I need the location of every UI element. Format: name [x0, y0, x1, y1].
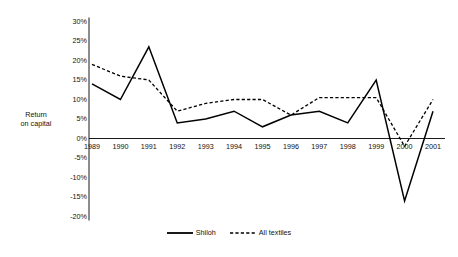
x-axis-tick-label: 1999 — [360, 143, 392, 151]
plot-area — [0, 0, 458, 257]
return-on-capital-line-chart: Return on capital 30%25%20%15%10%5%0%-5%… — [0, 0, 458, 257]
series-line-shiloh — [92, 47, 433, 201]
x-axis-tick-label: 2000 — [389, 143, 421, 151]
series-layer — [92, 47, 433, 201]
chart-legend: ShilohAll textiles — [0, 228, 458, 237]
x-axis-tick-label: 1997 — [303, 143, 335, 151]
y-axis-tick-label: 15% — [73, 76, 87, 84]
legend-swatch-solid-line-icon — [167, 229, 193, 237]
legend-swatch-dashed-line-icon — [230, 229, 256, 237]
legend-label: Shiloh — [196, 228, 216, 237]
y-axis-tick-label: -20% — [70, 213, 87, 221]
y-axis-tick-label: -10% — [70, 174, 87, 182]
x-axis-tick-label: 1991 — [133, 143, 165, 151]
legend-item-shiloh[interactable]: Shiloh — [167, 228, 216, 237]
y-axis-tick-label: 5% — [77, 115, 87, 123]
y-axis-title: Return on capital — [8, 110, 64, 128]
y-axis-title-line-1: Return — [8, 110, 64, 119]
y-axis-tick-label: -5% — [74, 154, 87, 162]
x-axis-tick-label: 1992 — [161, 143, 193, 151]
y-axis-tick-label: 10% — [73, 96, 87, 104]
y-axis-tick-label: 20% — [73, 57, 87, 65]
x-axis-tick-label: 1993 — [190, 143, 222, 151]
x-axis-tick-label: 2001 — [417, 143, 449, 151]
y-axis-tick-label: 25% — [73, 37, 87, 45]
legend-item-all-textiles[interactable]: All textiles — [230, 228, 291, 237]
y-axis-title-line-2: on capital — [8, 119, 64, 128]
x-axis-tick-label: 1995 — [247, 143, 279, 151]
y-axis-tick-label: -15% — [70, 193, 87, 201]
x-axis-tick-label: 1998 — [332, 143, 364, 151]
x-axis-tick-label: 1996 — [275, 143, 307, 151]
x-axis-tick-label: 1994 — [218, 143, 250, 151]
x-axis-tick-label: 1989 — [76, 143, 108, 151]
y-axis-tick-label: 30% — [73, 18, 87, 26]
x-axis-tick-label: 1990 — [104, 143, 136, 151]
legend-label: All textiles — [259, 228, 291, 237]
